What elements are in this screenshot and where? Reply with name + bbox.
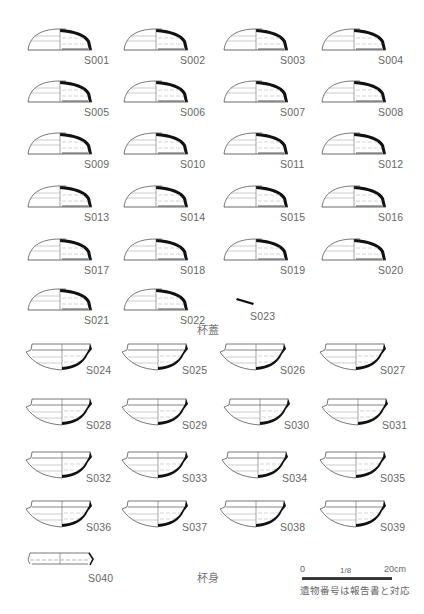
scale-line bbox=[302, 577, 392, 580]
lid-s007 bbox=[222, 78, 290, 104]
label-s011: S011 bbox=[280, 158, 305, 170]
label-s036: S036 bbox=[86, 521, 111, 533]
label-s001: S001 bbox=[84, 54, 109, 66]
label-s006: S006 bbox=[180, 106, 205, 118]
lid-s021 bbox=[26, 286, 94, 312]
bodies-caption: 杯身 bbox=[197, 569, 219, 585]
label-s003: S003 bbox=[280, 54, 305, 66]
lid-s022 bbox=[122, 286, 190, 312]
label-s021: S021 bbox=[84, 314, 109, 326]
label-s035: S035 bbox=[380, 472, 405, 484]
label-s007: S007 bbox=[280, 106, 305, 118]
figure-note: 遺物番号は報告書と対応 bbox=[300, 583, 410, 597]
lid-s009 bbox=[26, 130, 94, 156]
label-s012: S012 bbox=[378, 158, 403, 170]
label-s002: S002 bbox=[180, 54, 205, 66]
lid-s013 bbox=[26, 183, 94, 209]
label-s005: S005 bbox=[84, 106, 109, 118]
lid-s005 bbox=[26, 78, 94, 104]
lid-s006 bbox=[122, 78, 190, 104]
label-s025: S025 bbox=[182, 364, 207, 376]
label-s039: S039 bbox=[380, 521, 405, 533]
lid-s010 bbox=[122, 130, 190, 156]
lid-s019 bbox=[222, 236, 290, 262]
lid-s008 bbox=[320, 78, 388, 104]
label-s029: S029 bbox=[182, 419, 207, 431]
label-s027: S027 bbox=[380, 364, 405, 376]
label-s038: S038 bbox=[280, 521, 305, 533]
label-s033: S033 bbox=[182, 472, 207, 484]
label-s018: S018 bbox=[180, 264, 205, 276]
label-s034: S034 bbox=[282, 472, 307, 484]
label-s014: S014 bbox=[180, 211, 205, 223]
lid-s011 bbox=[222, 130, 290, 156]
label-s004: S004 bbox=[378, 54, 403, 66]
lids-caption: 杯蓋 bbox=[197, 321, 219, 337]
lid-s016 bbox=[320, 183, 388, 209]
label-s032: S032 bbox=[86, 472, 111, 484]
lid-s003 bbox=[222, 26, 290, 52]
lid-s020 bbox=[320, 236, 388, 262]
label-s015: S015 bbox=[280, 211, 305, 223]
lid-s012 bbox=[320, 130, 388, 156]
lid-s004 bbox=[320, 26, 388, 52]
label-s013: S013 bbox=[84, 211, 109, 223]
lid-s014 bbox=[122, 183, 190, 209]
fragment-s023 bbox=[236, 296, 256, 306]
label-s008: S008 bbox=[378, 106, 403, 118]
label-s031: S031 bbox=[382, 419, 407, 431]
label-s020: S020 bbox=[378, 264, 403, 276]
label-s026: S026 bbox=[280, 364, 305, 376]
label-s009: S009 bbox=[84, 158, 109, 170]
body-s040 bbox=[26, 552, 96, 566]
label-s024: S024 bbox=[86, 364, 111, 376]
label-s010: S010 bbox=[180, 158, 205, 170]
lid-s002 bbox=[122, 26, 190, 52]
label-s030: S030 bbox=[284, 419, 309, 431]
lid-s015 bbox=[222, 183, 290, 209]
label-s040: S040 bbox=[88, 572, 113, 584]
label-s028: S028 bbox=[86, 419, 111, 431]
label-s019: S019 bbox=[280, 264, 305, 276]
label-s037: S037 bbox=[182, 521, 207, 533]
scale-max: 20cm bbox=[384, 564, 406, 574]
lid-s001 bbox=[26, 26, 94, 52]
scale-ratio: 1/8 bbox=[340, 566, 351, 575]
label-s017: S017 bbox=[84, 264, 109, 276]
lid-s018 bbox=[122, 236, 190, 262]
lid-s017 bbox=[26, 236, 94, 262]
label-s023: S023 bbox=[250, 310, 275, 322]
label-s016: S016 bbox=[378, 211, 403, 223]
scale-zero: 0 bbox=[300, 564, 305, 574]
